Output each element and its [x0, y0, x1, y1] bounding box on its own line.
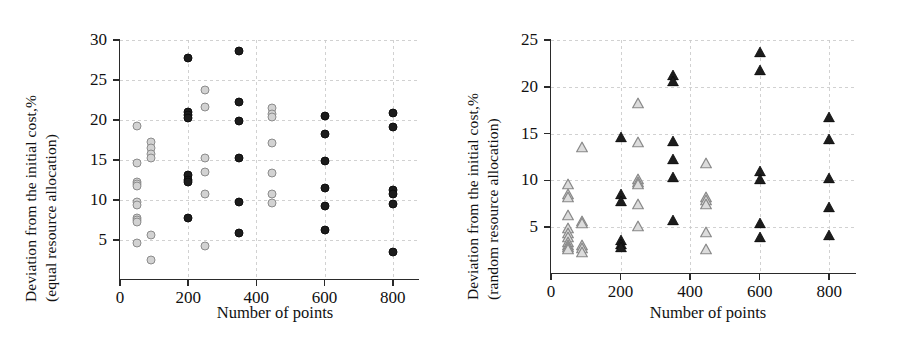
data-point: [700, 192, 712, 203]
y-axis-tick-label: 25: [90, 70, 107, 90]
open-circle-marker: [133, 122, 142, 131]
data-point: [133, 181, 142, 190]
open-circle-marker: [201, 85, 210, 94]
open-circle-marker: [146, 144, 155, 153]
open-circle-marker: [267, 168, 276, 177]
open-circle-marker: [267, 139, 276, 148]
gridline-horizontal: [551, 227, 856, 228]
data-point: [133, 213, 142, 222]
open-triangle-marker: [700, 192, 712, 203]
open-triangle-marker: [700, 198, 712, 209]
open-triangle-marker: [576, 215, 588, 226]
open-triangle-marker: [562, 210, 574, 221]
open-circle-marker: [133, 213, 142, 222]
data-point: [667, 136, 679, 147]
data-point: [133, 217, 142, 226]
gridline-horizontal: [120, 80, 419, 81]
filled-circle-marker: [235, 47, 244, 56]
gridline-vertical: [188, 40, 189, 279]
data-point: [133, 122, 142, 131]
data-point: [133, 216, 142, 225]
gridline-vertical: [621, 40, 622, 273]
data-point: [146, 144, 155, 153]
data-point: [201, 103, 210, 112]
open-circle-marker: [133, 217, 142, 226]
data-point: [700, 157, 712, 168]
x-axis-tick: [324, 279, 326, 286]
data-point: [576, 141, 588, 152]
open-triangle-marker: [632, 97, 644, 108]
x-axis-tick: [119, 279, 121, 286]
y-axis-tick: [544, 86, 551, 88]
data-point: [562, 239, 574, 250]
x-axis-tick: [828, 273, 830, 280]
data-point: [632, 173, 644, 184]
y-axis-tick-label: 20: [90, 110, 107, 130]
y-axis-label-line2: (random resource allocation): [484, 118, 502, 300]
open-circle-marker: [133, 180, 142, 189]
y-axis-tick: [544, 39, 551, 41]
open-triangle-marker: [632, 137, 644, 148]
open-circle-marker: [267, 190, 276, 199]
gridline-horizontal: [120, 40, 419, 41]
data-point: [267, 139, 276, 148]
x-axis-tick: [187, 279, 189, 286]
data-point: [133, 180, 142, 189]
open-triangle-marker: [700, 157, 712, 168]
gridline-horizontal: [551, 87, 856, 88]
x-axis-tick-label: 200: [175, 288, 201, 308]
gridline-vertical: [690, 40, 691, 273]
y-axis-tick-label: 15: [90, 150, 107, 170]
gridline-horizontal: [120, 240, 419, 241]
data-point: [562, 243, 574, 254]
x-axis-tick: [550, 273, 552, 280]
y-axis-tick-label: 10: [90, 190, 107, 210]
filled-triangle-marker: [667, 153, 679, 164]
y-axis-tick: [544, 180, 551, 182]
data-point: [267, 168, 276, 177]
open-triangle-marker: [562, 239, 574, 250]
data-point: [562, 192, 574, 203]
y-axis-tick: [113, 39, 120, 41]
open-triangle-marker: [632, 177, 644, 188]
data-point: [632, 97, 644, 108]
y-axis-tick-label: 30: [90, 30, 107, 50]
x-axis-tick-label: 0: [116, 288, 125, 308]
data-point: [562, 232, 574, 243]
open-circle-marker: [146, 138, 155, 147]
open-circle-marker: [133, 216, 142, 225]
data-point: [632, 137, 644, 148]
open-triangle-marker: [562, 232, 574, 243]
gridline-horizontal: [120, 160, 419, 161]
gridline-horizontal: [551, 134, 856, 135]
data-point: [667, 214, 679, 225]
x-axis-tick: [759, 273, 761, 280]
data-point: [235, 197, 244, 206]
data-point: [201, 242, 210, 251]
data-point: [576, 247, 588, 258]
panel-left: Deviation from the initial cost,% (equal…: [0, 0, 450, 339]
data-point: [146, 138, 155, 147]
data-point: [562, 227, 574, 238]
data-point: [146, 231, 155, 240]
scatter-figure: Deviation from the initial cost,% (equal…: [0, 0, 901, 339]
data-point: [267, 190, 276, 199]
filled-triangle-marker: [667, 76, 679, 87]
x-axis-tick: [256, 279, 258, 286]
filled-triangle-marker: [667, 69, 679, 80]
data-point: [576, 239, 588, 250]
open-triangle-marker: [576, 239, 588, 250]
open-circle-marker: [201, 103, 210, 112]
open-circle-marker: [201, 190, 210, 199]
gridline-horizontal: [551, 40, 856, 41]
data-point: [133, 177, 142, 186]
data-point: [700, 195, 712, 206]
plot-area-left: 510152025300200400600800: [119, 40, 419, 280]
x-axis-label: Number of points: [650, 303, 766, 323]
open-triangle-marker: [562, 237, 574, 248]
x-axis-tick: [392, 279, 394, 286]
x-axis-tick-label: 800: [380, 288, 406, 308]
data-point: [201, 190, 210, 199]
data-point: [235, 98, 244, 107]
filled-triangle-marker: [667, 136, 679, 147]
